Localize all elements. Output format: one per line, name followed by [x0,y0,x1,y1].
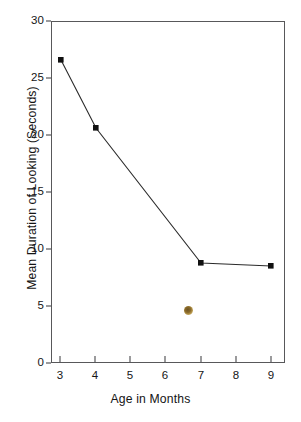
x-axis-title: Age in Months [0,392,301,406]
y-axis-title: Mean Duration of Looking (Seconds) [25,63,39,313]
x-tick-5: 5 [118,368,142,382]
y-tick-label: 0 [0,357,44,369]
y-tick-0: 0 [0,357,44,369]
x-tick-9: 9 [259,368,283,382]
x-tick-label: 9 [259,368,283,382]
x-tick-label: 4 [83,368,107,382]
y-tick-30: 30 [0,15,44,27]
plot-area [51,21,285,363]
x-tick-6: 6 [153,368,177,382]
x-tick-label: 6 [153,368,177,382]
y-tick-label: 30 [0,15,44,27]
x-tick-8: 8 [224,368,248,382]
x-tick-label: 3 [48,368,72,382]
x-tick-label: 8 [224,368,248,382]
stray-ink-mark [184,306,193,315]
x-tick-label: 7 [189,368,213,382]
x-tick-3: 3 [48,368,72,382]
x-tick-4: 4 [83,368,107,382]
x-tick-label: 5 [118,368,142,382]
x-tick-7: 7 [189,368,213,382]
chart-figure: 30 25 20 15 10 5 0 3 4 5 6 7 8 9 [0,0,301,422]
